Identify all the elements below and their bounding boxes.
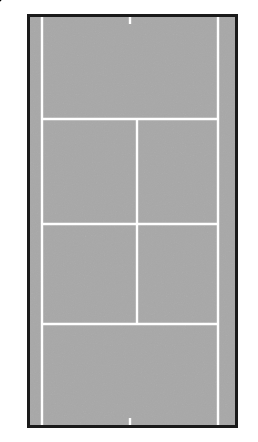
diagram-canvas	[0, 0, 258, 442]
tennis-court-diagram	[0, 0, 258, 442]
tm-marker-dot	[0, 0, 1, 1]
court-surface-group	[27, 14, 238, 428]
court-texture	[27, 14, 238, 428]
tm-marker	[0, 0, 1, 1]
